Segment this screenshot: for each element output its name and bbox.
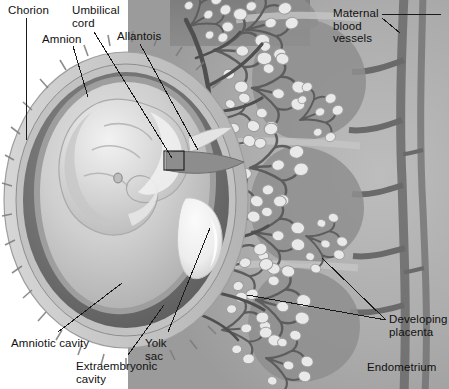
label-maternal-blood-vessels: Maternal blood vessels <box>333 7 379 45</box>
label-endometrium: Endometrium <box>367 361 437 374</box>
embryo-placenta-illustration <box>0 0 449 389</box>
figure-canvas: Chorion Umbilical cord Amnion Allantois … <box>0 0 449 389</box>
label-extraembryonic-cavity: Extraembryonic cavity <box>76 360 157 385</box>
optic-vesicle <box>114 173 122 183</box>
label-amnion: Amnion <box>42 33 82 46</box>
label-yolk-sac: Yolk sac <box>145 337 167 362</box>
label-developing-placenta: Developing placenta <box>389 313 448 338</box>
label-chorion: Chorion <box>8 4 49 17</box>
label-umbilical-cord: Umbilical cord <box>72 4 120 29</box>
label-amniotic-cavity: Amniotic cavity <box>11 337 89 350</box>
label-allantois: Allantois <box>117 30 161 43</box>
